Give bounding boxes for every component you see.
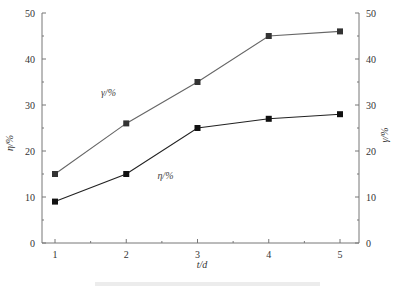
series-gamma [52,28,343,177]
y-tick-label-left: 30 [25,100,35,111]
data-point-marker [195,125,201,131]
y-tick-label-left: 50 [25,8,35,19]
ticks: 001010202030304040505012345 [25,8,376,261]
y-axis-left-label: η/% [4,135,15,151]
x-tick-label: 1 [53,249,58,260]
y-tick-label-left: 10 [25,192,35,203]
data-point-marker [337,28,343,34]
chart: 001010202030304040505012345 t/d η/% γ/% … [0,0,395,288]
y-axis-right-label: γ/% [379,127,390,142]
data-point-marker [337,111,343,117]
eta-series-annotation: η/% [157,170,173,181]
data-point-marker [195,79,201,85]
y-tick-label-right: 20 [366,146,376,157]
y-tick-label-right: 0 [366,238,371,249]
x-tick-label: 2 [124,249,129,260]
y-tick-label-left: 0 [30,238,35,249]
data-point-marker [123,120,129,126]
y-tick-label-right: 40 [366,54,376,65]
y-tick-label-left: 40 [25,54,35,65]
y-tick-label-left: 20 [25,146,35,157]
data-point-marker [123,171,129,177]
series-eta [52,111,343,204]
series-group [52,28,343,204]
data-point-marker [52,171,58,177]
y-tick-label-right: 50 [366,8,376,19]
figure-caption-faded [95,282,320,286]
series-line [55,31,340,174]
x-tick-label: 4 [266,249,271,260]
data-point-marker [52,199,58,205]
gamma-series-annotation: γ/% [101,87,116,98]
x-axis-label: t/d [197,259,209,270]
x-tick-label: 5 [338,249,343,260]
data-point-marker [266,116,272,122]
data-point-marker [266,33,272,39]
y-tick-label-right: 10 [366,192,376,203]
y-tick-label-right: 30 [366,100,376,111]
